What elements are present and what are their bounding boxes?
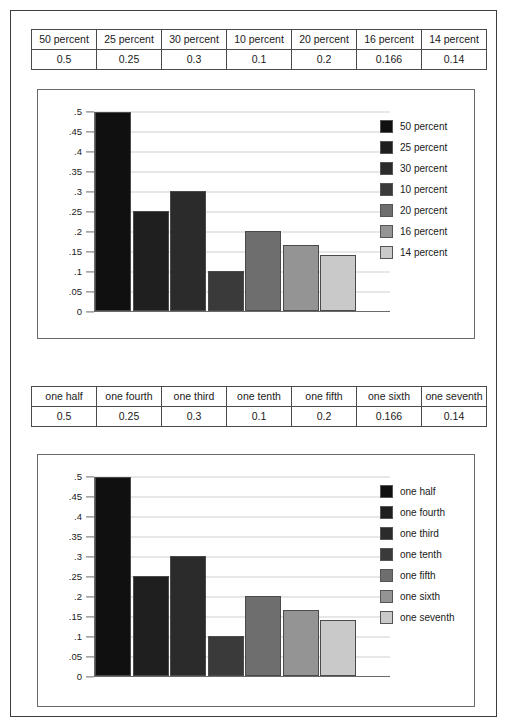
y-tick-label: .2	[48, 227, 82, 237]
y-tick-mark	[86, 111, 94, 112]
percent-legend: 50 percent25 percent30 percent10 percent…	[380, 116, 447, 263]
y-tick-label: .3	[48, 187, 82, 197]
table-value-cell: 0.5	[32, 50, 97, 70]
y-tick-mark	[86, 656, 94, 657]
y-tick-mark	[86, 251, 94, 252]
y-tick-label: .1	[48, 632, 82, 642]
y-tick-label: .05	[48, 652, 82, 662]
legend-swatch	[380, 527, 393, 540]
y-tick-mark	[86, 616, 94, 617]
y-tick-mark	[86, 536, 94, 537]
page-frame: 50 percent25 percent30 percent10 percent…	[10, 10, 497, 717]
legend-swatch	[380, 569, 393, 582]
y-tick-mark	[86, 596, 94, 597]
y-tick-mark	[86, 556, 94, 557]
legend-swatch	[380, 485, 393, 498]
bar	[283, 610, 319, 676]
table-value-cell: 0.25	[97, 50, 162, 70]
table-value-row: 0.50.250.30.10.20.1660.14	[32, 407, 487, 427]
y-tick-label: .35	[48, 167, 82, 177]
y-tick-mark	[86, 496, 94, 497]
legend-item: 14 percent	[380, 242, 447, 263]
legend-item: 50 percent	[380, 116, 447, 137]
y-tick-mark	[86, 231, 94, 232]
y-tick-mark	[86, 291, 94, 292]
table-value-cell: 0.3	[162, 50, 227, 70]
legend-item: one third	[380, 523, 455, 544]
y-tick-mark	[86, 151, 94, 152]
legend-item: one tenth	[380, 544, 455, 565]
bar	[95, 477, 131, 676]
words-data-table: one halfone fourthone thirdone tenthone …	[31, 386, 487, 427]
percent-data-table: 50 percent25 percent30 percent10 percent…	[31, 29, 487, 70]
legend-label: 30 percent	[400, 163, 447, 174]
y-tick-label: .45	[48, 127, 82, 137]
table-header-row: one halfone fourthone thirdone tenthone …	[32, 387, 487, 407]
y-tick-mark	[86, 131, 94, 132]
bar	[133, 576, 169, 675]
words-legend: one halfone fourthone thirdone tenthone …	[380, 481, 455, 628]
legend-label: 10 percent	[400, 184, 447, 195]
words-bars	[95, 477, 354, 676]
legend-label: one fourth	[400, 507, 445, 518]
legend-label: one sixth	[400, 591, 440, 602]
y-tick-mark	[86, 171, 94, 172]
legend-item: one half	[380, 481, 455, 502]
x-axis-line	[94, 676, 390, 677]
y-tick-label: .15	[48, 247, 82, 257]
legend-label: 16 percent	[400, 226, 447, 237]
table-value-cell: 0.166	[357, 407, 422, 427]
table-header-cell: 30 percent	[162, 30, 227, 50]
y-tick-mark	[86, 271, 94, 272]
legend-item: one seventh	[380, 607, 455, 628]
bar	[320, 255, 356, 311]
table-header-cell: 50 percent	[32, 30, 97, 50]
table-value-cell: 0.2	[292, 407, 357, 427]
legend-label: one third	[400, 528, 439, 539]
legend-swatch	[380, 141, 393, 154]
legend-item: one fourth	[380, 502, 455, 523]
legend-swatch	[380, 246, 393, 259]
legend-swatch	[380, 183, 393, 196]
percent-plot-area: 0.05.1.15.2.25.3.35.4.45.5	[94, 112, 354, 312]
legend-swatch	[380, 590, 393, 603]
legend-label: one fifth	[400, 570, 436, 581]
legend-item: one fifth	[380, 565, 455, 586]
y-tick-mark	[86, 516, 94, 517]
table-header-cell: 10 percent	[227, 30, 292, 50]
legend-label: 14 percent	[400, 247, 447, 258]
table-value-cell: 0.166	[357, 50, 422, 70]
legend-item: 20 percent	[380, 200, 447, 221]
bar	[95, 112, 131, 311]
table-header-cell: 16 percent	[357, 30, 422, 50]
table-header-cell: one sixth	[357, 387, 422, 407]
y-tick-label: .4	[48, 147, 82, 157]
words-chart-panel: 0.05.1.15.2.25.3.35.4.45.5 one halfone f…	[37, 454, 475, 707]
bar	[245, 596, 281, 675]
bar	[208, 271, 244, 311]
x-axis-line	[94, 311, 390, 312]
table-header-cell: one tenth	[227, 387, 292, 407]
table-header-cell: one seventh	[422, 387, 487, 407]
legend-item: 10 percent	[380, 179, 447, 200]
bar	[245, 231, 281, 310]
legend-swatch	[380, 506, 393, 519]
legend-swatch	[380, 204, 393, 217]
y-tick-label: .25	[48, 207, 82, 217]
table-header-cell: one fifth	[292, 387, 357, 407]
y-tick-label: 0	[48, 307, 82, 317]
table-value-cell: 0.1	[227, 407, 292, 427]
y-tick-label: .5	[48, 472, 82, 482]
legend-label: one tenth	[400, 549, 442, 560]
percent-bars	[95, 112, 354, 311]
legend-item: 25 percent	[380, 137, 447, 158]
y-tick-mark	[86, 636, 94, 637]
table-header-cell: 25 percent	[97, 30, 162, 50]
words-plot-area: 0.05.1.15.2.25.3.35.4.45.5	[94, 477, 354, 677]
y-tick-label: 0	[48, 672, 82, 682]
y-tick-label: .35	[48, 532, 82, 542]
table-header-row: 50 percent25 percent30 percent10 percent…	[32, 30, 487, 50]
y-tick-label: .4	[48, 512, 82, 522]
y-tick-label: .1	[48, 267, 82, 277]
table-value-cell: 0.14	[422, 407, 487, 427]
